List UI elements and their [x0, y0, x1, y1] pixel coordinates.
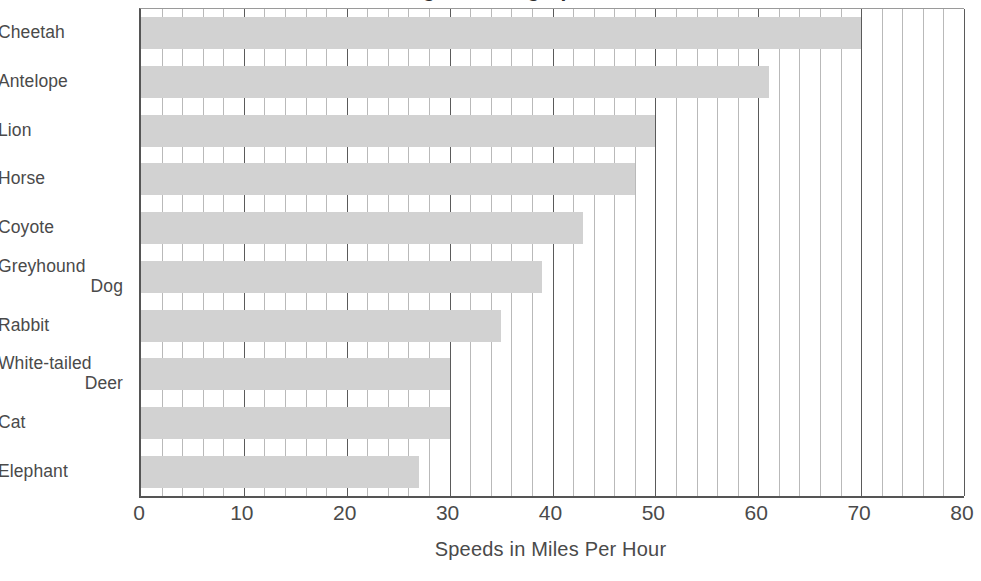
category-label-line: Cheetah	[0, 22, 123, 42]
category-label: Horse	[0, 168, 123, 188]
category-label: Cheetah	[0, 22, 123, 42]
bar	[141, 310, 501, 342]
bar	[141, 163, 635, 195]
bar-chart: Average Running Speeds of Animals Cheeta…	[0, 0, 981, 581]
bar	[141, 358, 450, 390]
bar	[141, 115, 655, 147]
bar	[141, 261, 542, 293]
x-tick-label: 60	[745, 501, 768, 525]
category-label-line: Greyhound	[0, 256, 123, 276]
chart-title: Average Running Speeds of Animals	[139, 0, 962, 2]
bar	[141, 212, 583, 244]
x-tick-label: 10	[230, 501, 253, 525]
plot-area	[139, 8, 964, 498]
bar	[141, 17, 861, 49]
x-axis-ticks: 01020304050607080	[139, 497, 962, 531]
category-label-line: Cat	[0, 412, 123, 432]
x-tick-label: 70	[847, 501, 870, 525]
x-axis-title: Speeds in Miles Per Hour	[139, 538, 962, 561]
category-label: White-tailedDeer	[0, 353, 123, 393]
x-tick-label: 40	[539, 501, 562, 525]
category-label-line: Rabbit	[0, 315, 123, 335]
category-label-line: Deer	[0, 373, 123, 393]
category-label-line: White-tailed	[0, 353, 123, 373]
bar	[141, 456, 419, 488]
x-tick-label: 20	[333, 501, 356, 525]
category-label-line: Lion	[0, 120, 123, 140]
bar-series	[141, 9, 964, 496]
category-label: Elephant	[0, 461, 123, 481]
category-label: Antelope	[0, 71, 123, 91]
x-tick-label: 50	[642, 501, 665, 525]
bar	[141, 66, 769, 98]
bar	[141, 407, 450, 439]
gridline-major	[964, 9, 965, 496]
category-axis-labels: CheetahAntelopeLionHorseCoyoteGreyhoundD…	[0, 8, 131, 495]
category-label-line: Coyote	[0, 217, 123, 237]
category-label-line: Elephant	[0, 461, 123, 481]
category-label-line: Horse	[0, 168, 123, 188]
category-label: Rabbit	[0, 315, 123, 335]
category-label-line: Dog	[0, 276, 123, 296]
category-label: GreyhoundDog	[0, 256, 123, 296]
x-tick-label: 0	[133, 501, 145, 525]
x-tick-label: 80	[950, 501, 973, 525]
category-label: Cat	[0, 412, 123, 432]
category-label: Coyote	[0, 217, 123, 237]
category-label: Lion	[0, 120, 123, 140]
x-tick-label: 30	[436, 501, 459, 525]
category-label-line: Antelope	[0, 71, 123, 91]
